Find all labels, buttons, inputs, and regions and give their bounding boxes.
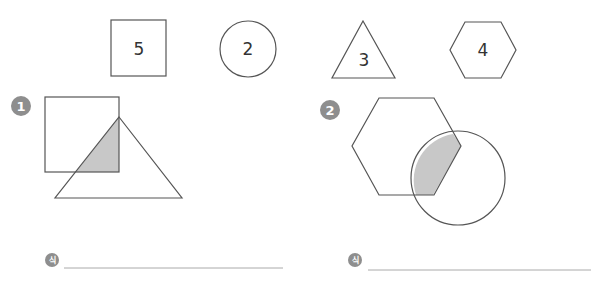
answer-row-2: 식 xyxy=(348,253,591,270)
legend-circle: 2 xyxy=(220,21,276,77)
problem-2: 2 xyxy=(320,98,505,225)
answer-2-label: 식 xyxy=(352,255,359,265)
problem-2-shaded-overlap xyxy=(414,134,461,195)
answer-row-1: 식 xyxy=(45,253,283,268)
legend-hexagon-value: 4 xyxy=(478,40,489,60)
problem-2-number: 2 xyxy=(325,103,334,118)
legend-circle-value: 2 xyxy=(243,39,254,59)
legend-square: 5 xyxy=(111,20,166,76)
legend-hexagon: 4 xyxy=(450,22,516,78)
worksheet-canvas: 5 2 3 4 1 2 식 식 xyxy=(0,0,598,287)
problem-1-number: 1 xyxy=(16,99,25,114)
problem-1: 1 xyxy=(11,96,182,198)
legend-square-value: 5 xyxy=(134,39,145,59)
legend-triangle: 3 xyxy=(332,21,395,78)
answer-1-label: 식 xyxy=(49,255,56,265)
legend-triangle-value: 3 xyxy=(359,50,370,70)
